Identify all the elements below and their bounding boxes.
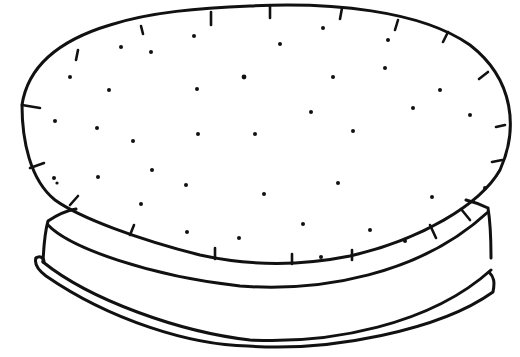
crust-outline — [22, 5, 510, 263]
dish-body-edge — [43, 262, 491, 341]
crust-disc — [22, 5, 510, 264]
fork-prick-dots — [52, 26, 487, 259]
pie-crust-drawing — [0, 0, 520, 357]
dish-inner-edge — [48, 212, 488, 287]
dish-base-lip — [35, 258, 493, 347]
illustration — [0, 0, 520, 357]
pie-dish — [35, 200, 493, 347]
dish-base-bottom — [36, 257, 44, 262]
